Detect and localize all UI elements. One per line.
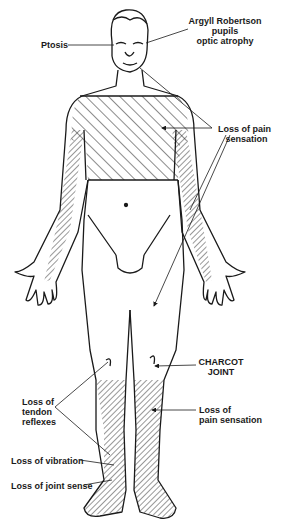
label-ptosis: Ptosis [41,40,68,50]
label-loss-of-tendon-reflexes: Loss of tendon reflexes [22,397,56,427]
body-figure-diagram [0,0,289,530]
label-loss-of-pain-sensation-upper: Loss of pain sensation [218,124,271,144]
label-loss-of-vibration: Loss of vibration [11,456,84,466]
label-loss-of-pain-sensation-lower: Loss of pain sensation [199,405,262,425]
label-argyll-robertson: Argyll Robertson pupils optic atrophy [180,16,270,46]
label-loss-of-joint-sense: Loss of joint sense [11,481,93,491]
label-charcot-joint: CHARCOT JOINT [196,357,246,377]
hatched-trunk-region [72,96,189,180]
